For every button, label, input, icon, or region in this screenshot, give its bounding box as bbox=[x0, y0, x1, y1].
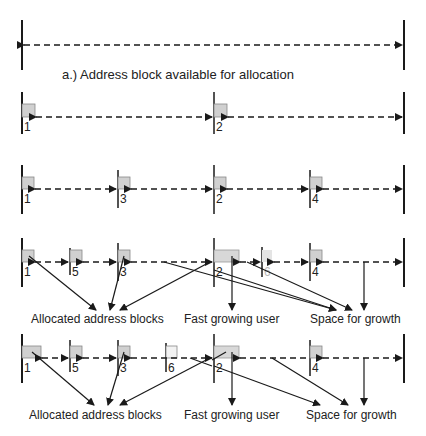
annotation-allocated-blocks: Allocated address blocks bbox=[31, 312, 164, 326]
label-1: 1 bbox=[24, 265, 31, 279]
label-4: 4 bbox=[312, 192, 319, 206]
caption-a: a.) Address block available for allocati… bbox=[62, 67, 294, 82]
annotation-fast-growing-user: Fast growing user bbox=[184, 408, 279, 422]
annotation-space-for-growth: Space for growth bbox=[306, 408, 397, 422]
row-3: 1 3 2 4 bbox=[22, 165, 404, 214]
address-allocation-diagram: a.) Address block available for allocati… bbox=[0, 0, 426, 436]
row-1-empty-block: a.) Address block available for allocati… bbox=[22, 20, 404, 82]
label-4: 4 bbox=[312, 361, 319, 375]
label-6: 6 bbox=[168, 361, 175, 375]
label-3: 3 bbox=[120, 192, 127, 206]
row-4: 1 5 3 2 6 4 Allocated address blocks Fas… bbox=[22, 238, 404, 326]
label-2: 2 bbox=[216, 192, 223, 206]
label-2: 2 bbox=[216, 120, 223, 134]
block-2 bbox=[214, 104, 227, 117]
row-2: 1 2 bbox=[22, 92, 404, 134]
annotation-space-for-growth: Space for growth bbox=[310, 312, 401, 326]
annotation-allocated-blocks: Allocated address blocks bbox=[29, 408, 162, 422]
label-1: 1 bbox=[24, 120, 31, 134]
annotation-fast-growing-user: Fast growing user bbox=[184, 312, 279, 326]
label-5: 5 bbox=[72, 265, 79, 279]
fast-growing-block bbox=[214, 250, 239, 262]
block-1 bbox=[22, 104, 35, 117]
label-5: 5 bbox=[72, 361, 79, 375]
row-5: 1 5 3 6 2 4 Allocated address blocks Fas… bbox=[22, 334, 404, 422]
label-4: 4 bbox=[312, 265, 319, 279]
label-1: 1 bbox=[24, 361, 31, 375]
label-1: 1 bbox=[24, 192, 31, 206]
